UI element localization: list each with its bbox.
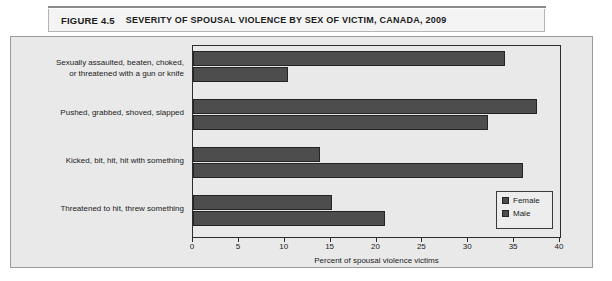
x-axis-title: Percent of spousal violence victims: [192, 256, 561, 265]
category-label: Sexually assaulted, beaten, choked, or t…: [8, 58, 184, 79]
legend-swatch-icon: [502, 197, 509, 204]
x-axis-tick-label: 35: [509, 242, 518, 251]
x-axis-tick-label: 15: [325, 242, 334, 251]
bar-female-kicked-bit: [193, 147, 320, 162]
figure-title: SEVERITY OF SPOUSAL VIOLENCE BY SEX OF V…: [115, 15, 447, 25]
figure-title-bar: FIGURE 4.5 SEVERITY OF SPOUSAL VIOLENCE …: [48, 9, 545, 32]
x-axis-tick-label: 5: [236, 242, 240, 251]
x-axis-tick-label: 20: [371, 242, 380, 251]
legend-item-male: Male: [502, 209, 552, 218]
bar-female-pushed-grabbed: [193, 99, 537, 114]
bar-male-sexually-assaulted: [193, 67, 288, 82]
legend-label: Male: [513, 209, 530, 218]
top-rule-divider: [48, 6, 546, 8]
bar-male-kicked-bit: [193, 163, 523, 178]
x-axis-tick-label: 0: [190, 242, 194, 251]
legend-item-female: Female: [502, 196, 552, 205]
bar-male-threatened-to-hit: [193, 211, 385, 226]
chart-legend: Female Male: [496, 191, 553, 229]
bar-female-sexually-assaulted: [193, 51, 505, 66]
category-label: Threatened to hit, threw something: [8, 204, 184, 215]
legend-swatch-icon: [502, 210, 509, 217]
bar-male-pushed-grabbed: [193, 115, 488, 130]
x-axis-tick-label: 25: [417, 242, 426, 251]
category-label: Kicked, bit, hit, hit with something: [8, 156, 184, 167]
x-axis-tick-label: 40: [555, 242, 564, 251]
bar-female-threatened-to-hit: [193, 195, 332, 210]
x-axis-tick-label: 10: [279, 242, 288, 251]
x-axis-tick-label: 30: [463, 242, 472, 251]
legend-label: Female: [513, 196, 540, 205]
figure-screenshot: FIGURE 4.5 SEVERITY OF SPOUSAL VIOLENCE …: [0, 0, 612, 281]
figure-number-label: FIGURE 4.5: [49, 15, 115, 26]
category-axis-labels: Sexually assaulted, beaten, choked, or t…: [12, 45, 188, 238]
category-label: Pushed, grabbed, shoved, slapped: [8, 108, 184, 119]
x-axis-ticks: 0510152025303540: [192, 238, 561, 243]
